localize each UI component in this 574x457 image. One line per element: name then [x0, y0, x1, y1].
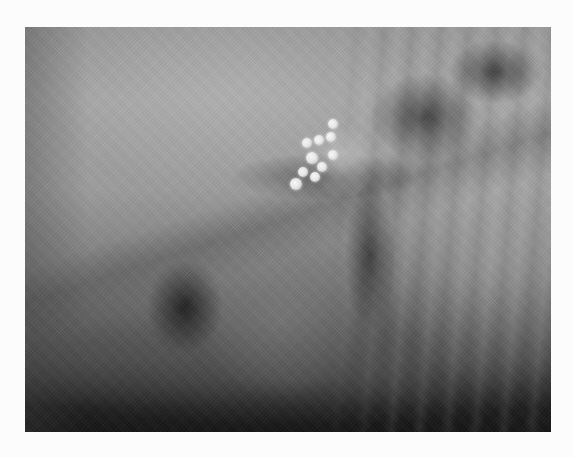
- page: Lateral thoracic radiograph showing a cl…: [0, 0, 574, 457]
- xray-image: [25, 27, 551, 432]
- film-grain: [25, 27, 551, 432]
